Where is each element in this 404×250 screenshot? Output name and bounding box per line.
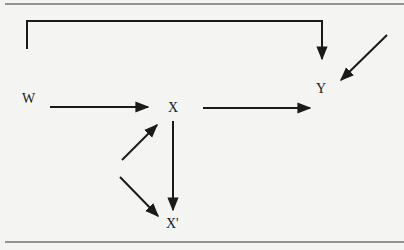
arrow-disturbance-to-x [122, 125, 157, 160]
node-x: X [168, 101, 178, 115]
arrow-w-to-y-bracket [27, 21, 322, 59]
node-w: W [22, 92, 35, 106]
diagram-canvas [0, 0, 404, 250]
node-x-prime: X' [166, 217, 179, 231]
arrow-disturbance-to-xprime [120, 177, 158, 216]
arrow-disturbance-to-y [341, 35, 387, 80]
node-y: Y [316, 82, 326, 96]
